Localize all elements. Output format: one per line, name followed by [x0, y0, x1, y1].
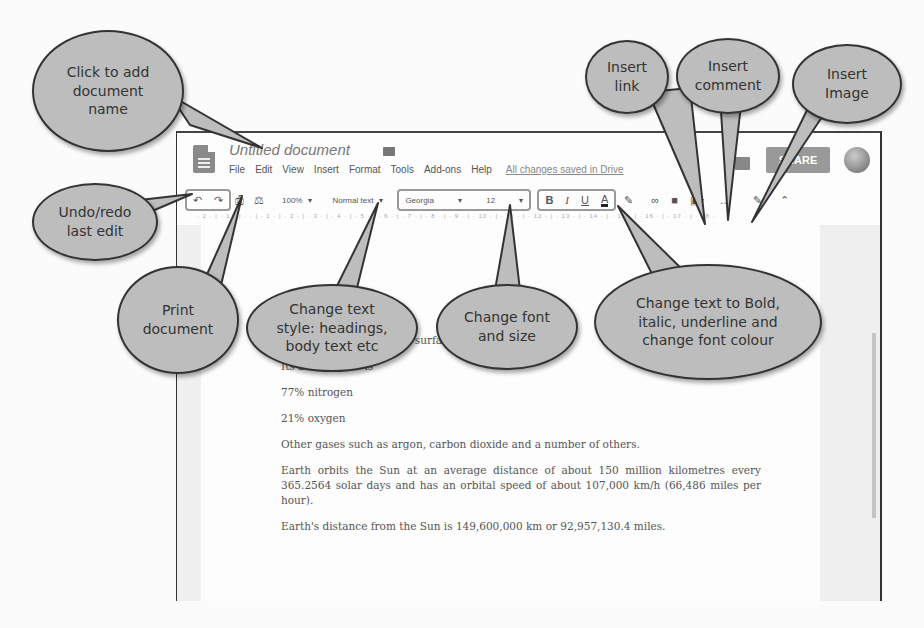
- save-status[interactable]: All changes saved in Drive: [506, 164, 624, 175]
- print-icon[interactable]: ⎙: [235, 194, 244, 207]
- edit-mode-icon[interactable]: ✎: [753, 194, 762, 207]
- callout-insert-image: Insert Image: [792, 44, 902, 124]
- callout-insert-link: Insert link: [585, 40, 669, 114]
- callout-font-size: Change font and size: [436, 284, 578, 370]
- zoom-value: 100%: [282, 196, 302, 205]
- ruler[interactable]: · 2 · | · 1 · | · · | · 1 · | · 2 · | · …: [197, 213, 837, 223]
- menu-view[interactable]: View: [282, 164, 304, 175]
- menu-file[interactable]: File: [229, 164, 245, 175]
- scrollbar[interactable]: [872, 333, 876, 518]
- more-icon[interactable]: …: [720, 194, 731, 206]
- folder-icon[interactable]: [383, 147, 395, 156]
- style-value: Normal text: [332, 196, 373, 205]
- bold-button[interactable]: B: [545, 194, 553, 206]
- menu-help[interactable]: Help: [471, 164, 492, 175]
- italic-button[interactable]: I: [565, 194, 569, 206]
- chevron-down-icon: ▾: [379, 196, 383, 205]
- image-icon[interactable]: ▣: [690, 194, 700, 207]
- collapse-icon[interactable]: ⌃: [780, 194, 789, 207]
- menu-format[interactable]: Format: [349, 164, 381, 175]
- callout-text-style: Change text style: headings, body text e…: [246, 284, 418, 372]
- menu-tools[interactable]: Tools: [391, 164, 414, 175]
- font-group: Georgia ▾ 12 ▾: [397, 189, 531, 211]
- link-icon[interactable]: ∞: [651, 194, 659, 206]
- paragraph: 21% oxygen: [281, 411, 761, 426]
- callout-insert-comment: Insert comment: [676, 38, 780, 114]
- document-title[interactable]: Untitled document: [229, 141, 350, 158]
- menu-insert[interactable]: Insert: [314, 164, 339, 175]
- docs-logo-icon[interactable]: [193, 145, 215, 173]
- menu-bar: File Edit View Insert Format Tools Add-o…: [229, 164, 624, 175]
- chevron-down-icon[interactable]: ▾: [762, 196, 766, 205]
- paragraph: Earth orbits the Sun at an average dista…: [281, 463, 761, 508]
- comments-icon[interactable]: [735, 157, 750, 170]
- chevron-down-icon: ▾: [519, 196, 523, 205]
- chevron-down-icon: ▾: [458, 196, 462, 205]
- menu-edit[interactable]: Edit: [255, 164, 272, 175]
- text-color-button[interactable]: A: [601, 194, 608, 207]
- callout-undo-redo: Undo/redo last edit: [32, 183, 158, 261]
- font-size-select[interactable]: 12: [486, 196, 495, 205]
- callout-document-name: Click to add document name: [32, 30, 184, 152]
- toolbar: ↶ ↷ ⎙ ⚖ 100% ▾ Normal text ▾ Georgia ▾ 1…: [185, 189, 872, 211]
- paragraph: Earth's distance from the Sun is 149,600…: [281, 519, 761, 534]
- paragraph: 77% nitrogen: [281, 385, 761, 400]
- style-select[interactable]: Normal text ▾: [332, 196, 383, 205]
- menu-addons[interactable]: Add-ons: [424, 164, 461, 175]
- chevron-down-icon: ▾: [308, 196, 312, 205]
- font-select[interactable]: Georgia: [405, 196, 433, 205]
- callout-print: Print document: [117, 266, 239, 374]
- callout-formatting: Change text to Bold, italic, underline a…: [594, 264, 822, 380]
- chevron-down-icon[interactable]: ▾: [700, 196, 704, 205]
- formatting-group: B I U A: [537, 189, 616, 211]
- paint-format-icon[interactable]: ⚖: [254, 194, 264, 207]
- undo-redo-group: ↶ ↷: [185, 189, 231, 211]
- underline-button[interactable]: U: [581, 194, 589, 206]
- undo-icon[interactable]: ↶: [193, 194, 202, 207]
- share-button[interactable]: SHARE: [766, 147, 830, 173]
- comment-icon[interactable]: ■: [671, 194, 678, 206]
- zoom-select[interactable]: 100% ▾: [282, 196, 312, 205]
- page-gutter-right: [820, 225, 880, 601]
- highlight-icon[interactable]: ✎: [624, 194, 633, 207]
- redo-icon[interactable]: ↷: [214, 194, 223, 207]
- paragraph: Other gases such as argon, carbon dioxid…: [281, 437, 761, 452]
- avatar[interactable]: [844, 147, 870, 173]
